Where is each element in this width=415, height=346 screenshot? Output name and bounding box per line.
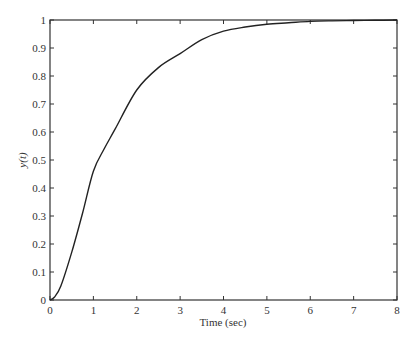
y-tick-label: 0.9 <box>32 42 46 54</box>
y-tick-labels: 00.10.20.30.40.50.60.70.80.91 <box>32 14 46 306</box>
y-tick-label: 0.4 <box>32 182 46 194</box>
x-tick-label: 0 <box>47 304 53 316</box>
x-tick-label: 8 <box>394 304 400 316</box>
x-axis-label: Time (sec) <box>200 316 247 329</box>
y-tick-label: 0.2 <box>32 238 46 250</box>
plot-axes <box>50 20 397 300</box>
y-tick-label: 0.6 <box>32 126 46 138</box>
y-tick-label: 0.1 <box>32 266 46 278</box>
x-tick-label: 4 <box>221 304 227 316</box>
x-tick-label: 2 <box>134 304 140 316</box>
y-axis-label: y(t) <box>16 152 29 169</box>
y-tick-label: 0.8 <box>32 70 46 82</box>
x-tick-label: 1 <box>91 304 97 316</box>
x-tick-label: 6 <box>308 304 314 316</box>
step-response-chart: 012345678 00.10.20.30.40.50.60.70.80.91 … <box>0 0 415 346</box>
x-tick-label: 3 <box>177 304 183 316</box>
x-tick-label: 7 <box>351 304 357 316</box>
y-tick-label: 0.5 <box>32 154 46 166</box>
x-tick-label: 5 <box>264 304 270 316</box>
response-curve <box>50 20 397 300</box>
x-tick-labels: 012345678 <box>47 304 400 316</box>
y-tick-label: 1 <box>41 14 47 26</box>
y-tick-label: 0.3 <box>32 210 46 222</box>
axis-ticks <box>50 20 397 300</box>
plot-frame <box>50 20 397 300</box>
y-tick-label: 0.7 <box>32 98 46 110</box>
y-tick-label: 0 <box>41 294 47 306</box>
